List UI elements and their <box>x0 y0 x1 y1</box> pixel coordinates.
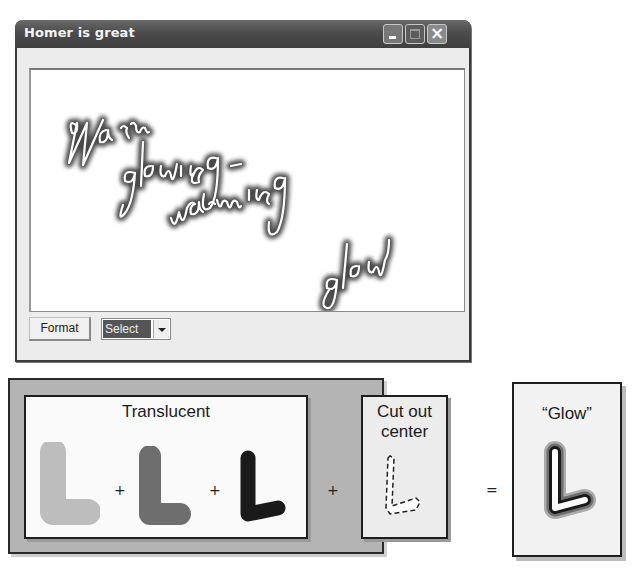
cut-out-label-line2: center <box>361 422 448 442</box>
plus-sign-1: + <box>114 482 126 498</box>
glow-l-result <box>535 440 605 530</box>
close-button[interactable]: × <box>427 24 447 44</box>
select-dropdown[interactable]: Select <box>101 318 171 340</box>
plus-sign-3: + <box>327 482 339 498</box>
equals-sign: = <box>486 482 498 498</box>
maximize-icon <box>410 29 420 39</box>
maximize-button[interactable] <box>405 24 425 44</box>
light-l-shape <box>38 442 100 534</box>
glowing-handwriting <box>31 70 465 312</box>
dark-l-shape <box>236 450 288 528</box>
format-button[interactable]: Format <box>29 317 91 341</box>
minimize-button[interactable] <box>383 24 403 44</box>
medium-l-shape <box>136 446 192 532</box>
app-window: Homer is great × <box>15 20 471 362</box>
drawing-canvas[interactable] <box>29 68 465 312</box>
minimize-icon <box>389 36 396 39</box>
select-value: Select <box>103 320 151 338</box>
title-bar[interactable]: Homer is great × <box>15 20 471 48</box>
plus-sign-2: + <box>209 482 221 498</box>
close-icon: × <box>428 23 446 43</box>
window-title: Homer is great <box>24 25 135 40</box>
dashed-l-outline <box>380 452 430 522</box>
glow-result-label: “Glow” <box>512 404 622 424</box>
translucent-label: Translucent <box>24 402 308 422</box>
cut-out-label-line1: Cut out <box>361 402 448 422</box>
chevron-down-icon[interactable] <box>153 320 169 338</box>
